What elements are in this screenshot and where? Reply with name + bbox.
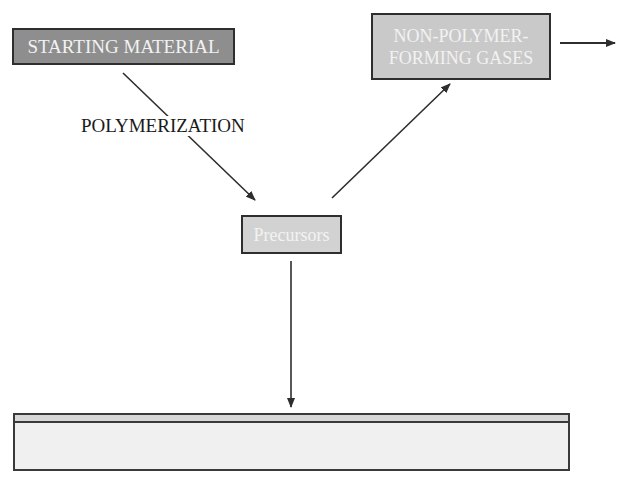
substrate [13, 413, 570, 471]
polymerization-label: POLYMERIZATION [80, 116, 246, 136]
arrow-precursors-to-gases [332, 84, 450, 198]
non-polymer-gases-box: NON-POLYMER- FORMING GASES [371, 13, 551, 80]
deposited-film-layer [15, 415, 568, 423]
arrow-start-to-precursors [123, 73, 255, 200]
gases-label-line1: NON-POLYMER- [393, 25, 528, 47]
starting-material-label: STARTING MATERIAL [27, 37, 219, 56]
precursors-box: Precursors [241, 215, 342, 254]
precursors-label: Precursors [254, 226, 330, 244]
gases-label-line2: FORMING GASES [389, 47, 534, 69]
starting-material-box: STARTING MATERIAL [12, 28, 235, 65]
